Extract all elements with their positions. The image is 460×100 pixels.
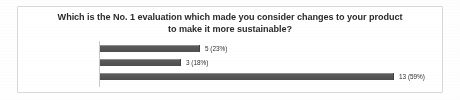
bar-value-label: 13 (59%) — [399, 73, 425, 81]
bar-value-label: 5 (23%) — [205, 45, 227, 53]
bar — [100, 73, 394, 80]
bar-value-label: 3 (18%) — [186, 59, 208, 67]
plot-area: Self-evaluation 5 (23%) Community expert… — [0, 0, 460, 100]
chart-figure: Which is the No. 1 evaluation which made… — [0, 0, 460, 100]
bar — [100, 45, 200, 52]
bar — [100, 59, 181, 66]
